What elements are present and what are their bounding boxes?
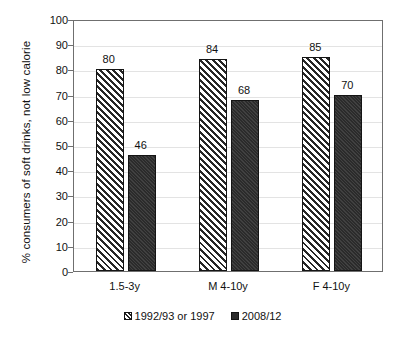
bar <box>199 59 227 271</box>
bar <box>128 155 156 271</box>
y-axis-tick-label: 10 <box>28 241 68 253</box>
legend-entry: 1992/93 or 1997 <box>124 310 215 322</box>
legend-label: 1992/93 or 1997 <box>135 310 215 322</box>
y-axis-tick-label: 100 <box>28 14 68 26</box>
bar-chart: % consumers of soft drinks, not low calo… <box>0 0 405 346</box>
x-axis-category-label: F 4-10y <box>313 280 350 292</box>
x-axis-category-label: M 4-10y <box>208 280 248 292</box>
legend-swatch-icon <box>124 312 132 320</box>
y-axis-tick-label: 80 <box>28 64 68 76</box>
y-axis-tick-label: 30 <box>28 190 68 202</box>
bar <box>334 95 362 271</box>
legend-label: 2008/12 <box>242 310 282 322</box>
bar-value-label: 80 <box>103 53 115 65</box>
bar <box>302 57 330 271</box>
bar-value-label: 46 <box>135 139 147 151</box>
bar-value-label: 70 <box>341 79 353 91</box>
y-axis-tick-label: 70 <box>28 90 68 102</box>
y-axis-tick-label: 20 <box>28 216 68 228</box>
chart-legend: 1992/93 or 19972008/12 <box>0 310 405 322</box>
legend-swatch-icon <box>231 312 239 320</box>
bar-value-label: 68 <box>238 84 250 96</box>
bar <box>96 69 124 271</box>
bar-value-label: 84 <box>206 43 218 55</box>
x-axis-category-label: 1.5-3y <box>109 280 140 292</box>
y-axis-tick-mark <box>68 272 73 273</box>
y-axis-tick-label: 60 <box>28 115 68 127</box>
bar <box>231 100 259 271</box>
legend-entry: 2008/12 <box>231 310 282 322</box>
y-axis-tick-label: 50 <box>28 140 68 152</box>
bar-value-label: 85 <box>309 41 321 53</box>
y-axis-tick-label: 0 <box>28 266 68 278</box>
y-axis-tick-label: 90 <box>28 39 68 51</box>
gridline <box>74 46 382 47</box>
plot-area <box>73 20 383 272</box>
y-axis-tick-label: 40 <box>28 165 68 177</box>
